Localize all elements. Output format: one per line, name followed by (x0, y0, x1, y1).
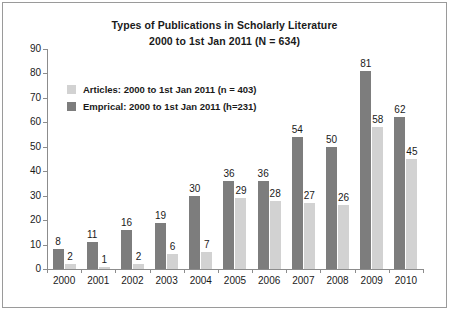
bar-value-label-empirical: 16 (116, 218, 137, 228)
y-axis-tick-label: 40 (17, 166, 41, 176)
bar-value-label-articles: 26 (333, 193, 354, 203)
plot-area: 0102030405060708090 82111162196307362936… (47, 49, 423, 270)
y-axis-tick (43, 245, 47, 246)
y-axis-tick-label: 0 (17, 264, 41, 274)
bar-articles (338, 205, 349, 269)
bar-value-label-articles: 58 (367, 115, 388, 125)
bar-group: 6245 (389, 49, 423, 269)
bar-value-label-articles: 7 (196, 240, 217, 250)
bar-empirical (121, 230, 132, 269)
y-axis-tick-label: 70 (17, 93, 41, 103)
bar-group: 3628 (252, 49, 286, 269)
bar-articles (167, 254, 178, 269)
y-axis-tick (43, 73, 47, 74)
bar-articles (304, 203, 315, 269)
bar-empirical (292, 137, 303, 269)
bar-value-label-empirical: 30 (184, 184, 205, 194)
bar-value-label-empirical: 36 (218, 169, 239, 179)
bar-value-label-empirical: 19 (150, 211, 171, 221)
x-axis-tick-label: 2001 (81, 275, 115, 287)
bar-value-label-empirical: 54 (287, 125, 308, 135)
chart-figure: Types of Publications in Scholarly Liter… (2, 2, 447, 308)
x-axis-tick-label: 2005 (218, 275, 252, 287)
bar-group: 307 (184, 49, 218, 269)
y-axis-tick-label: 80 (17, 68, 41, 78)
y-axis-tick-label: 10 (17, 240, 41, 250)
bar-group: 5026 (320, 49, 354, 269)
bar-value-label-empirical: 81 (355, 59, 376, 69)
x-axis-tick-label: 2006 (252, 275, 286, 287)
y-axis-tick-labels: 0102030405060708090 (13, 49, 41, 270)
bar-empirical (326, 147, 337, 269)
bar-articles (372, 127, 383, 269)
x-axis-tick (115, 269, 116, 273)
bar-series-container: 82111162196307362936285427502681586245 (47, 49, 423, 269)
bar-group: 111 (81, 49, 115, 269)
bar-value-label-articles: 28 (265, 189, 286, 199)
bar-articles (133, 264, 144, 269)
bar-articles (65, 264, 76, 269)
x-axis-tick (81, 269, 82, 273)
bar-articles (270, 201, 281, 269)
bar-value-label-articles: 27 (299, 191, 320, 201)
y-axis-tick (43, 147, 47, 148)
bar-empirical (360, 71, 371, 269)
x-axis-tick (286, 269, 287, 273)
x-axis-line (47, 269, 423, 270)
x-axis-tick-label: 2007 (286, 275, 320, 287)
x-axis-tick (320, 269, 321, 273)
bar-group: 196 (150, 49, 184, 269)
bar-articles (201, 252, 212, 269)
y-axis-tick (43, 122, 47, 123)
bar-group: 8158 (355, 49, 389, 269)
bar-articles (235, 198, 246, 269)
bar-value-label-articles: 6 (162, 242, 183, 252)
bar-group: 3629 (218, 49, 252, 269)
y-axis-tick-label: 50 (17, 142, 41, 152)
bar-value-label-articles: 29 (230, 186, 251, 196)
x-axis-tick (184, 269, 185, 273)
y-axis-tick (43, 98, 47, 99)
bar-value-label-articles: 2 (60, 252, 81, 262)
x-axis-tick-label: 2009 (355, 275, 389, 287)
page-title: Types of Publications in Scholarly Liter… (3, 17, 446, 33)
y-axis-tick (43, 196, 47, 197)
bar-value-label-empirical: 8 (48, 237, 69, 247)
x-axis-tick-label: 2000 (47, 275, 81, 287)
chart-subtitle: 2000 to 1st Jan 2011 (N = 634) (3, 33, 446, 49)
bar-group: 162 (115, 49, 149, 269)
bar-value-label-empirical: 36 (253, 169, 274, 179)
x-axis-tick-label: 2002 (115, 275, 149, 287)
y-axis-tick (43, 220, 47, 221)
chart-title-block: Types of Publications in Scholarly Liter… (3, 17, 446, 49)
x-axis-tick (423, 269, 424, 273)
y-axis-tick-label: 60 (17, 117, 41, 127)
bar-group: 82 (47, 49, 81, 269)
x-axis-tick (218, 269, 219, 273)
y-axis-tick (43, 49, 47, 50)
x-axis-tick (47, 269, 48, 273)
x-axis-tick (355, 269, 356, 273)
y-axis-tick (43, 171, 47, 172)
bar-articles (99, 267, 110, 269)
x-axis-tick (389, 269, 390, 273)
bar-value-label-empirical: 11 (82, 230, 103, 240)
bar-value-label-articles: 1 (94, 255, 115, 265)
x-axis-tick-label: 2004 (184, 275, 218, 287)
bar-value-label-empirical: 62 (389, 105, 410, 115)
y-axis-tick-label: 30 (17, 191, 41, 201)
x-axis-tick (252, 269, 253, 273)
bar-empirical (189, 196, 200, 269)
bar-value-label-articles: 45 (401, 147, 422, 157)
x-axis-tick-label: 2008 (320, 275, 354, 287)
bar-empirical (394, 117, 405, 269)
bar-articles (406, 159, 417, 269)
bar-group: 5427 (286, 49, 320, 269)
bar-value-label-articles: 2 (128, 252, 149, 262)
y-axis-tick-label: 90 (17, 44, 41, 54)
x-axis-tick-label: 2010 (389, 275, 423, 287)
x-axis-tick (150, 269, 151, 273)
y-axis-tick-label: 20 (17, 215, 41, 225)
bar-value-label-empirical: 50 (321, 135, 342, 145)
x-axis-tick-label: 2003 (150, 275, 184, 287)
